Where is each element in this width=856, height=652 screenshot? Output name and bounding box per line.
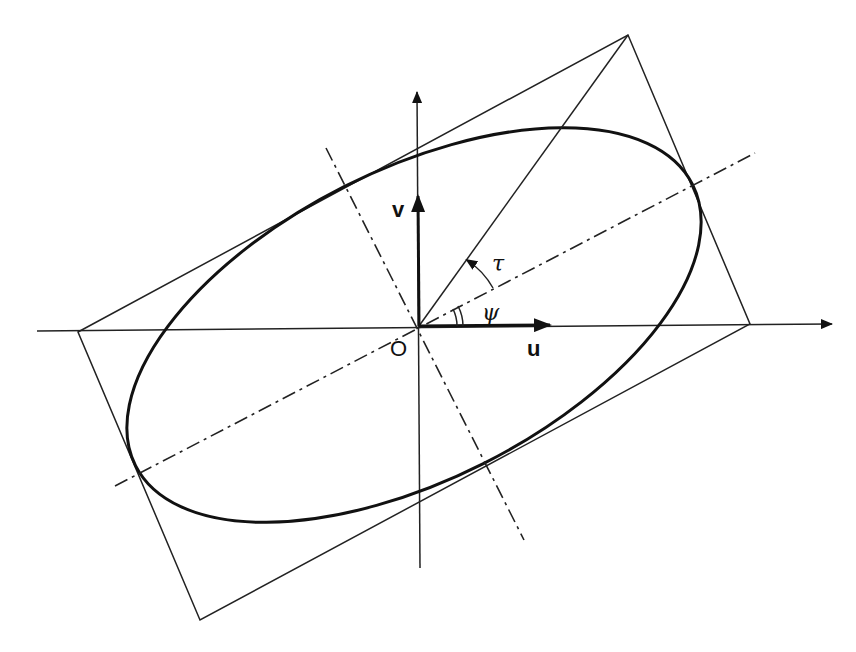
origin-label: O <box>390 336 407 361</box>
tau-label: τ <box>492 251 505 276</box>
minor-axis-line <box>326 148 524 540</box>
tau-angle-arc <box>467 260 493 288</box>
psi-angle-arc-inner <box>453 309 457 326</box>
u-vector <box>419 325 550 326</box>
vertical-axis <box>417 92 420 568</box>
v-axis-label: v <box>392 197 405 222</box>
u-axis-label: u <box>527 336 540 361</box>
diagonal-line <box>419 35 628 326</box>
polarization-ellipse <box>66 46 763 604</box>
major-axis-line <box>115 153 755 486</box>
v-vector <box>418 196 419 326</box>
psi-angle-arc-outer <box>458 306 463 326</box>
polarization-ellipse-diagram: O u v τ ψ <box>0 0 856 652</box>
psi-label: ψ <box>482 300 500 325</box>
